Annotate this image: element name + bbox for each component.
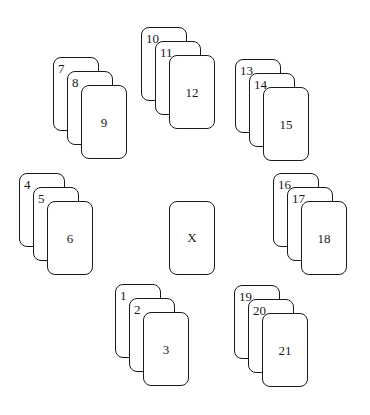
card-label: 3 [144, 313, 188, 385]
center-card-x: X [169, 201, 215, 275]
card-18: 18 [301, 201, 347, 275]
card-stack-top-right: 13 14 15 [235, 59, 311, 163]
card-stack-bottom-left: 1 2 3 [115, 284, 191, 388]
card-label: 2 [134, 303, 141, 316]
card-3: 3 [143, 312, 189, 386]
card-label: 12 [170, 56, 214, 128]
card-label: 7 [58, 62, 65, 75]
card-label: 4 [24, 178, 31, 191]
card-stack-top-left: 7 8 9 [53, 57, 129, 161]
card-stack-left: 4 5 6 [19, 173, 95, 277]
card-stack-bottom-right: 19 20 21 [234, 285, 310, 389]
card-label: 21 [263, 314, 307, 386]
card-12: 12 [169, 55, 215, 129]
card-layout-diagram: 10 11 12 7 8 9 13 14 15 4 [0, 0, 370, 415]
card-label: 1 [120, 289, 127, 302]
card-label: 6 [48, 202, 92, 274]
card-label: X [187, 230, 196, 246]
card-label: 5 [38, 192, 45, 205]
card-stack-right: 16 17 18 [273, 173, 349, 277]
card-label: 8 [72, 76, 79, 89]
card-15: 15 [263, 87, 309, 161]
card-stack-top: 10 11 12 [141, 27, 217, 131]
card-label: 18 [302, 202, 346, 274]
card-6: 6 [47, 201, 93, 275]
card-label: 9 [82, 86, 126, 158]
card-9: 9 [81, 85, 127, 159]
card-21: 21 [262, 313, 308, 387]
card-label: 15 [264, 88, 308, 160]
